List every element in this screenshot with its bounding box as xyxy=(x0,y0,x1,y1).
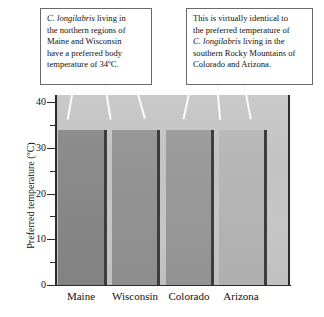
plot-right-border xyxy=(288,95,290,286)
y-tick-label-40: 40 xyxy=(36,97,46,107)
callout-left: C. longilabris living in the northern re… xyxy=(40,8,152,85)
bar-colorado-edge xyxy=(211,130,214,285)
y-tick-label-10: 10 xyxy=(36,234,46,244)
y-tick-label-30: 30 xyxy=(36,143,46,153)
callout-right-line-1: This is virtually identical to xyxy=(193,13,307,25)
callout-right-line-2: the preferred temperature of xyxy=(193,25,307,37)
callout-right-line-3: C. longilabris living in the xyxy=(193,36,307,48)
callout-left-line-3: Maine and Wisconsin xyxy=(47,36,146,48)
bar-colorado xyxy=(166,130,211,285)
x-axis-line xyxy=(55,285,291,286)
y-tick-label-20: 20 xyxy=(36,189,46,199)
callout-right-line-5: Colorado and Arizona. xyxy=(193,59,307,71)
x-label-maine: Maine xyxy=(53,290,109,303)
y-axis-title: Preferred temperature (ºC) xyxy=(25,111,36,281)
bar-maine-edge xyxy=(104,130,107,285)
callout-left-line-4: have a preferred body xyxy=(47,48,146,60)
callout-left-line-5: temperature of 34ºC. xyxy=(47,59,146,71)
bar-wisconsin-edge xyxy=(157,130,160,285)
bar-wisconsin-body xyxy=(112,130,157,285)
bar-wisconsin xyxy=(112,130,157,285)
x-label-wisconsin: Wisconsin xyxy=(104,290,166,303)
y-tick-30 xyxy=(47,148,55,149)
y-tick-0 xyxy=(47,285,55,286)
bar-maine xyxy=(58,130,104,285)
y-tick-10 xyxy=(47,239,55,240)
y-tick-minor-35 xyxy=(50,125,55,126)
bar-arizona-edge xyxy=(264,130,267,285)
callout-right: This is virtually identical to the prefe… xyxy=(186,8,313,85)
y-tick-40 xyxy=(47,102,55,103)
callout-left-line-2: the northern regions of xyxy=(47,25,146,37)
bar-arizona xyxy=(219,130,264,285)
species-name-italic: C. longilabris xyxy=(47,13,95,23)
callout-right-line-4: southern Rocky Mountains of xyxy=(193,48,307,60)
y-tick-20 xyxy=(47,194,55,195)
x-label-colorado: Colorado xyxy=(158,290,220,303)
y-tick-label-0: 0 xyxy=(41,280,46,290)
y-axis-line xyxy=(55,95,57,286)
species-name-italic-2: C. longilabris xyxy=(193,36,241,46)
y-tick-minor-15 xyxy=(50,216,55,217)
callout-left-line-1: C. longilabris living in xyxy=(47,13,146,25)
bar-arizona-body xyxy=(219,130,264,285)
y-tick-minor-5 xyxy=(50,262,55,263)
bar-colorado-body xyxy=(166,130,211,285)
bar-chart-figure: Preferred temperature (ºC) 0 10 20 30 40… xyxy=(0,0,324,317)
bar-maine-body xyxy=(58,130,104,285)
x-label-arizona: Arizona xyxy=(212,290,270,303)
y-tick-minor-25 xyxy=(50,171,55,172)
